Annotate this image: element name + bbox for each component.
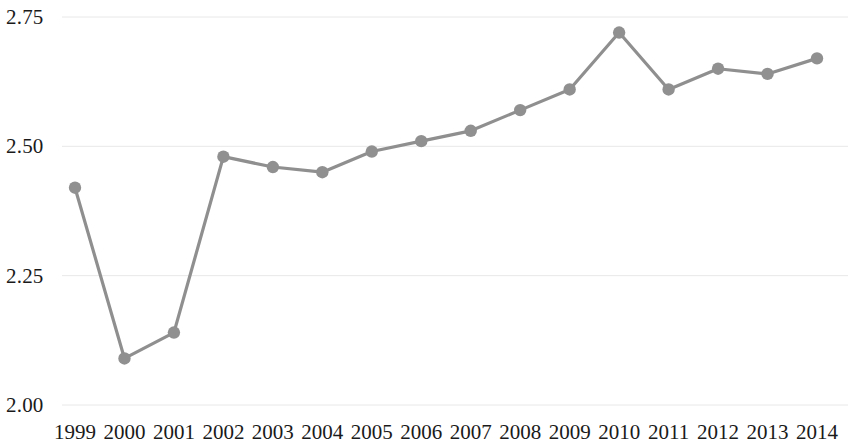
y-tick-label: 2.00 <box>6 395 60 416</box>
y-tick-label: 2.75 <box>6 7 60 28</box>
data-point-marker[interactable] <box>613 26 625 38</box>
x-tick-label: 2004 <box>296 422 348 443</box>
series-line <box>75 33 817 359</box>
data-point-marker[interactable] <box>514 104 526 116</box>
x-tick-label: 2014 <box>791 422 843 443</box>
gridline-group <box>62 17 848 405</box>
x-tick-label: 2013 <box>742 422 794 443</box>
x-tick-label: 2007 <box>445 422 497 443</box>
chart-canvas <box>0 0 848 448</box>
data-point-marker[interactable] <box>316 166 328 178</box>
x-tick-label: 2003 <box>247 422 299 443</box>
x-tick-label: 2006 <box>395 422 447 443</box>
data-marker-group <box>69 26 823 364</box>
data-series-group <box>75 33 817 359</box>
line-chart: 2.002.252.502.75 19992000200120022003200… <box>0 0 848 448</box>
data-point-marker[interactable] <box>168 326 180 338</box>
x-tick-label: 2010 <box>593 422 645 443</box>
x-tick-label: 2005 <box>346 422 398 443</box>
data-point-marker[interactable] <box>415 135 427 147</box>
x-tick-label: 2000 <box>98 422 150 443</box>
plot-area: 2.002.252.502.75 19992000200120022003200… <box>0 0 848 448</box>
x-tick-label: 2012 <box>692 422 744 443</box>
y-tick-label: 2.25 <box>6 266 60 287</box>
x-tick-label: 2011 <box>643 422 695 443</box>
data-point-marker[interactable] <box>267 161 279 173</box>
x-axis: 1999200020012002200320042005200620072008… <box>0 420 848 448</box>
x-tick-label: 2008 <box>494 422 546 443</box>
data-point-marker[interactable] <box>563 83 575 95</box>
data-point-marker[interactable] <box>662 83 674 95</box>
data-point-marker[interactable] <box>217 150 229 162</box>
data-point-marker[interactable] <box>811 52 823 64</box>
x-tick-label: 2009 <box>544 422 596 443</box>
y-axis: 2.002.252.502.75 <box>4 0 60 448</box>
data-point-marker[interactable] <box>69 182 81 194</box>
data-point-marker[interactable] <box>366 145 378 157</box>
data-point-marker[interactable] <box>761 68 773 80</box>
data-point-marker[interactable] <box>118 352 130 364</box>
x-tick-label: 2001 <box>148 422 200 443</box>
y-tick-label: 2.50 <box>6 136 60 157</box>
x-tick-label: 2002 <box>197 422 249 443</box>
data-point-marker[interactable] <box>465 125 477 137</box>
data-point-marker[interactable] <box>712 63 724 75</box>
x-tick-label: 1999 <box>49 422 101 443</box>
